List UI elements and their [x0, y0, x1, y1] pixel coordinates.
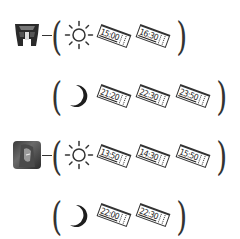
- showtime-ticket[interactable]: 13:50: [97, 144, 132, 168]
- showtime-label: 14:30: [138, 147, 160, 164]
- showtime-ticket[interactable]: 23:50: [176, 84, 211, 108]
- ticket-perforation: [158, 155, 166, 165]
- close-paren-day-2: ): [216, 136, 227, 176]
- ticket-perforation: [119, 155, 127, 165]
- open-paren-day-2: (: [51, 136, 62, 176]
- showtime-ticket[interactable]: 22:30: [136, 84, 171, 108]
- showtime-label: 23:50: [178, 87, 200, 104]
- ticket-perforation: [119, 35, 127, 45]
- showtime-label: 22:30: [138, 206, 160, 223]
- face-photo-icon: [13, 141, 41, 169]
- sun-icon: [64, 20, 94, 50]
- showtime-ticket[interactable]: 21:20: [97, 84, 132, 108]
- showtime-label: 15:00: [99, 27, 121, 44]
- character-photo-avatar: [13, 141, 41, 169]
- sun-icon: [64, 140, 94, 170]
- close-paren-night-1: ): [216, 76, 227, 116]
- autobot-avatar-icon: [13, 21, 41, 49]
- showtime-label: 13:50: [99, 147, 121, 164]
- autobot-logo-icon: [13, 21, 41, 49]
- showtime-ticket[interactable]: 15:00: [97, 24, 132, 48]
- moon-icon: [66, 83, 92, 109]
- showtime-label: 21:20: [99, 87, 121, 104]
- ticket-perforation: [119, 95, 127, 105]
- open-paren-night-2: (: [51, 196, 62, 236]
- ticket-perforation: [158, 35, 166, 45]
- close-paren-night-2: ): [176, 196, 187, 236]
- showtime-ticket[interactable]: 22:00: [97, 203, 132, 227]
- open-paren-day-1: (: [51, 16, 62, 56]
- showtime-label: 16:30: [138, 27, 160, 44]
- moon-icon: [66, 203, 92, 229]
- showtime-ticket[interactable]: 14:30: [136, 144, 171, 168]
- ticket-perforation: [158, 214, 166, 224]
- showtime-label: 22:30: [138, 87, 160, 104]
- open-paren-night-1: (: [51, 76, 62, 116]
- showtime-ticket[interactable]: 22:30: [136, 203, 171, 227]
- ticket-perforation: [119, 214, 127, 224]
- ticket-perforation: [198, 155, 206, 165]
- ticket-perforation: [198, 95, 206, 105]
- showtime-label: 22:00: [99, 206, 121, 223]
- showtime-ticket[interactable]: 16:30: [136, 24, 171, 48]
- close-paren-day-1: ): [176, 16, 187, 56]
- showtime-label: 15:50: [178, 147, 200, 164]
- ticket-perforation: [158, 95, 166, 105]
- showtime-ticket[interactable]: 15:50: [176, 144, 211, 168]
